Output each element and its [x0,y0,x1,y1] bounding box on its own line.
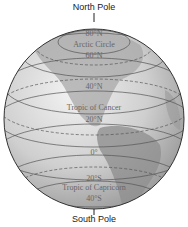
lat-label-20s: 20°S [86,174,102,183]
lat-label-arctic-circle: Arctic Circle [73,40,115,49]
lat-label-40n: 40°N [86,82,103,91]
lat-label-tropic-of-capricorn: Tropic of Capricorn [62,183,126,192]
south-pole-label: South Pole [0,214,188,224]
globe-diagram: North Pole [0,0,188,227]
lat-label-tropic-of-cancer: Tropic of Cancer [67,103,122,112]
lat-label-60n: 60°N [86,51,103,60]
lat-label-40s: 40°S [86,194,102,203]
globe: 80°N Arctic Circle 60°N 40°N Tropic of C… [0,0,188,227]
lat-label-equator: 0° [90,148,97,157]
lat-label-20n: 20°N [86,115,103,124]
lat-label-80n: 80°N [86,29,103,38]
